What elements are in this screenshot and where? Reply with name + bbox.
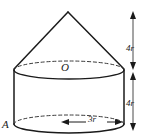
- label-base-radius: 3r: [88, 115, 96, 124]
- cone-shape: [14, 12, 124, 69]
- dimension-cone-height: [130, 11, 136, 70]
- cylinder-height-arrow-up-icon: [130, 72, 136, 80]
- geometry-drawing-canvas: [0, 0, 151, 139]
- cone-left-slant-edge: [14, 12, 68, 69]
- top-ellipse-visible-front-arc: [14, 70, 124, 79]
- label-cone-height: 4r: [126, 44, 134, 53]
- geometry-figure: O A 4r 4r 3r: [0, 0, 151, 139]
- cone-height-arrow-up-icon: [130, 11, 136, 19]
- label-base-point-a: A: [2, 119, 9, 130]
- cone-height-arrow-down-icon: [130, 62, 136, 70]
- label-center-point-o: O: [61, 62, 69, 73]
- radius-arrow-left-icon: [61, 119, 69, 125]
- bottom-ellipse-visible-front-arc: [14, 124, 124, 133]
- cone-base-ellipse: [14, 61, 124, 79]
- cylinder-height-arrow-down-icon: [130, 123, 136, 131]
- label-cylinder-height: 4r: [126, 99, 134, 108]
- cylinder-shape: [14, 70, 124, 124]
- top-ellipse-hidden-back-arc: [14, 61, 124, 70]
- cone-right-slant-edge: [68, 12, 124, 69]
